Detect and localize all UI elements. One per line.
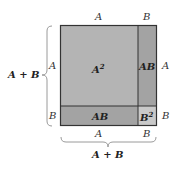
bottom-brace-label: A + B	[92, 150, 124, 160]
label-ab-bottom: AB	[92, 112, 108, 122]
right-label-a: A	[162, 61, 169, 71]
bottom-brace-icon	[61, 137, 156, 147]
top-label-b: B	[143, 12, 150, 22]
top-label-a: A	[95, 12, 102, 22]
right-label-b: B	[162, 111, 169, 121]
diagram-lines	[0, 0, 179, 169]
left-label-a: A	[49, 61, 56, 71]
bottom-label-a: A	[95, 129, 102, 139]
label-a-squared: A2	[92, 62, 105, 75]
left-label-b: B	[49, 111, 56, 121]
left-brace-label: A + B	[8, 70, 40, 80]
label-ab-right: AB	[139, 62, 155, 72]
label-b-squared: B2	[140, 110, 153, 123]
bottom-label-b: B	[143, 129, 150, 139]
